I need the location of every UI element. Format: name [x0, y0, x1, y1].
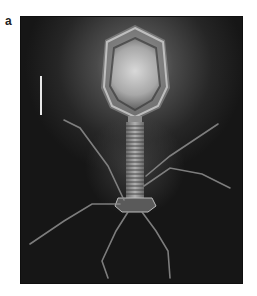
scale-bar — [40, 76, 42, 115]
tail-sheath — [126, 122, 144, 198]
panel-label: a — [5, 14, 12, 28]
phage-micrograph — [20, 16, 243, 284]
capsid — [101, 25, 170, 120]
baseplate — [115, 198, 156, 212]
